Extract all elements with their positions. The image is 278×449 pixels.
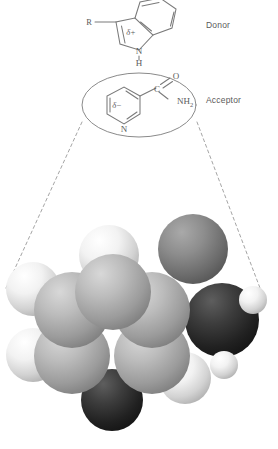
structures-and-guides: R δ+ N H δ− N C O NH2 — [0, 0, 278, 449]
amide-group: NH2 — [177, 96, 193, 108]
model-atom-oxygen — [158, 214, 228, 284]
carbonyl-oxygen: O — [173, 71, 180, 81]
donor-label: Donor — [206, 20, 230, 30]
projection-line-left — [6, 122, 82, 288]
space-filling-model — [6, 214, 267, 431]
indole-nitrogen: N — [136, 46, 143, 56]
acceptor-label: Acceptor — [206, 95, 241, 105]
indole-delta-plus: δ+ — [126, 27, 136, 37]
carbonyl-carbon: C — [154, 84, 160, 94]
indole-r-label: R — [86, 17, 92, 27]
model-atom-hydrogen — [210, 351, 238, 379]
indole-nh-hydrogen: H — [136, 58, 143, 68]
pyridine-delta-minus: δ− — [112, 100, 122, 110]
chemistry-figure: R δ+ N H δ− N C O NH2 — [0, 0, 278, 449]
model-atom-hydrogen — [239, 286, 267, 314]
pyridine-nitrogen: N — [121, 124, 128, 134]
model-atom-carbon — [75, 254, 151, 330]
